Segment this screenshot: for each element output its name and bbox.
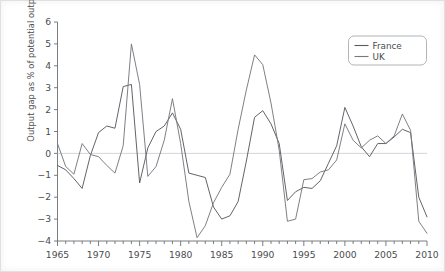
y-tick-label: 2: [45, 104, 51, 115]
y-tick-label: −3: [37, 213, 51, 224]
y-tick-label: −4: [37, 235, 51, 246]
y-tick-label: −1: [37, 169, 51, 180]
y-tick-label: 1: [45, 126, 51, 137]
y-tick-label: 0: [45, 148, 51, 159]
data-series-group: [58, 44, 428, 238]
legend-label-france: France: [373, 41, 402, 51]
y-tick-label: 6: [45, 16, 51, 27]
x-tick-label: 2000: [333, 249, 357, 260]
legend-label-uk: UK: [373, 52, 385, 62]
x-tick-label: 2005: [374, 249, 398, 260]
x-tick-label: 1995: [292, 249, 316, 260]
x-tick-label: 1975: [128, 249, 152, 260]
y-tick-label: 5: [45, 38, 51, 49]
x-tick-label: 1990: [251, 249, 275, 260]
y-axis-ticks: 6543210−1−2−3−4: [37, 16, 57, 246]
line-chart: 6543210−1−2−3−4 196519701975198019851990…: [0, 0, 445, 272]
y-tick-label: 4: [45, 60, 51, 71]
chart-page: Output gap as % of potential output 6543…: [0, 0, 445, 272]
series-line-france: [58, 84, 428, 219]
x-tick-label: 1980: [169, 249, 193, 260]
series-line-uk: [58, 44, 428, 238]
y-tick-label: 3: [45, 82, 51, 93]
x-axis-ticks: 1965197019751980198519901995200020052010: [46, 241, 439, 260]
chart-legend[interactable]: FranceUK: [349, 36, 427, 65]
x-tick-label: 1985: [210, 249, 234, 260]
y-tick-label: −2: [37, 191, 51, 202]
x-tick-label: 2010: [415, 249, 439, 260]
x-tick-label: 1970: [87, 249, 111, 260]
x-tick-label: 1965: [46, 249, 70, 260]
